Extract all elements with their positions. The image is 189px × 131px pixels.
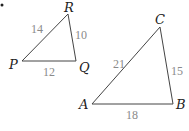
vertex-r-label: R — [63, 0, 74, 15]
side-pr-length: 14 — [31, 22, 43, 36]
triangle-abc-outline — [92, 27, 173, 104]
side-cb-length: 15 — [171, 64, 183, 78]
triangle-abc: C A B 21 15 18 — [78, 12, 186, 122]
vertex-c-label: C — [155, 12, 165, 27]
side-ac-length: 21 — [113, 57, 125, 71]
vertex-b-label: B — [175, 97, 186, 112]
side-rq-length: 10 — [75, 28, 87, 42]
side-ab-length: 18 — [126, 108, 138, 122]
side-pq-length: 12 — [43, 65, 55, 79]
triangle-pqr: R P Q 14 10 12 — [8, 0, 90, 79]
vertex-q-label: Q — [79, 60, 90, 75]
similar-triangles-diagram: R P Q 14 10 12 C A B 21 15 18 — [0, 0, 189, 131]
bullet-marker — [1, 4, 4, 7]
vertex-a-label: A — [78, 97, 88, 112]
vertex-p-label: P — [8, 57, 18, 72]
